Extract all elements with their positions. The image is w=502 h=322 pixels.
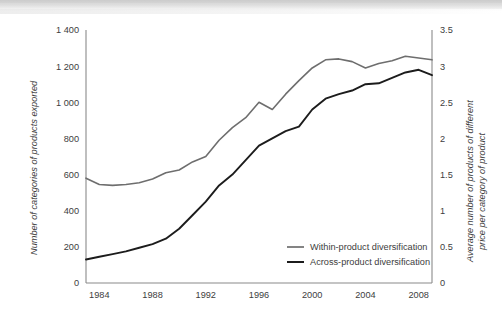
chart-page: 02004006008001 0001 2001 400 00.511.522.… bbox=[0, 0, 502, 322]
x-tick-label: 1992 bbox=[196, 290, 216, 300]
right-tick-label: 2 bbox=[440, 134, 445, 144]
left-tick-label: 400 bbox=[64, 206, 79, 216]
data-series-group bbox=[86, 56, 432, 259]
left-tick-label: 1 400 bbox=[56, 25, 79, 35]
x-tick-label: 1996 bbox=[249, 290, 269, 300]
left-tick-label: 1 200 bbox=[56, 62, 79, 72]
right-axis-title-line1: Average number of products of different bbox=[465, 100, 475, 263]
left-tick-label: 200 bbox=[64, 242, 79, 252]
line-chart: 02004006008001 0001 2001 400 00.511.522.… bbox=[0, 0, 502, 322]
left-tick-label: 800 bbox=[64, 134, 79, 144]
left-axis-title: Number of categories of products exporte… bbox=[29, 80, 39, 255]
right-tick-label: 1 bbox=[440, 206, 445, 216]
series-line-2 bbox=[86, 70, 432, 260]
left-tick-label: 0 bbox=[74, 278, 79, 288]
x-tick-label: 1988 bbox=[142, 290, 162, 300]
x-axis-tick-labels: 1984198819921996200020042008 bbox=[89, 290, 429, 300]
legend-label-1[interactable]: Within-product diversification bbox=[310, 242, 427, 252]
x-tick-label: 2004 bbox=[355, 290, 375, 300]
x-tick-label: 2000 bbox=[302, 290, 322, 300]
right-tick-label: 1.5 bbox=[440, 170, 453, 180]
x-tick-label: 2008 bbox=[408, 290, 428, 300]
right-tick-label: 2.5 bbox=[440, 98, 453, 108]
x-tick-label: 1984 bbox=[89, 290, 109, 300]
legend-label-2[interactable]: Across-product diversification bbox=[310, 257, 430, 267]
left-tick-label: 600 bbox=[64, 170, 79, 180]
left-axis-tick-labels: 02004006008001 0001 2001 400 bbox=[56, 25, 79, 288]
right-tick-label: 3.5 bbox=[440, 25, 453, 35]
right-tick-label: 0 bbox=[440, 278, 445, 288]
series-line-1 bbox=[86, 56, 432, 185]
right-axis-title-line2: price per category of product bbox=[477, 133, 487, 251]
right-tick-label: 0.5 bbox=[440, 242, 453, 252]
right-tick-label: 3 bbox=[440, 62, 445, 72]
left-tick-label: 1 000 bbox=[56, 98, 79, 108]
right-axis-tick-labels: 00.511.522.533.5 bbox=[440, 25, 453, 288]
legend[interactable]: Within-product diversificationAcross-pro… bbox=[287, 242, 430, 267]
